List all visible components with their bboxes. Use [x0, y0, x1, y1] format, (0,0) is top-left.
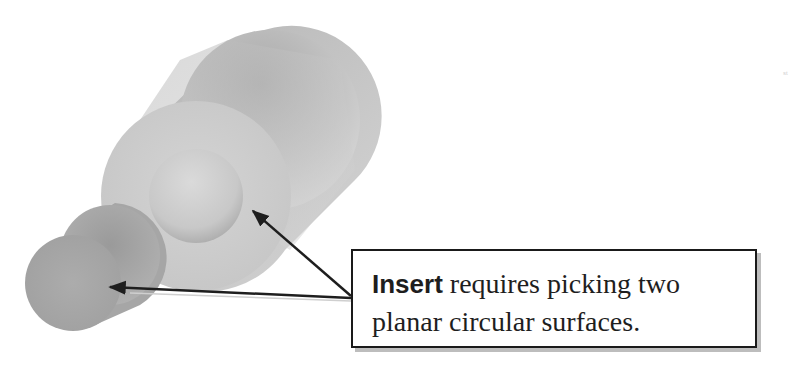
corner-mark: st: [783, 70, 788, 76]
inner-hole-circular-face: [149, 149, 243, 243]
callout-line-1: Insert requires picking two: [372, 265, 755, 303]
callout-line1-text: requires picking two: [443, 268, 680, 299]
small-cylinder-circular-face: [25, 235, 121, 331]
small-cylinder: [25, 203, 167, 331]
callout-keyword: Insert: [372, 269, 443, 299]
callout-line-2: planar circular surfaces.: [372, 303, 755, 340]
callout-box: Insert requires picking two planar circu…: [351, 249, 757, 348]
